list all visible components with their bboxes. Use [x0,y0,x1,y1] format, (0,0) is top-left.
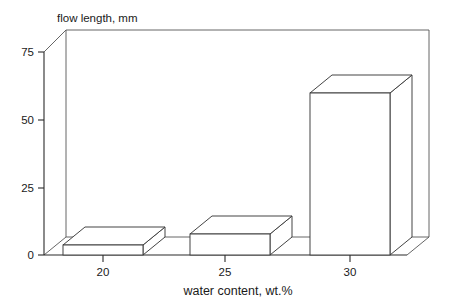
floor-right-diagonal [407,237,429,255]
bar-20 [63,227,165,255]
y-tick-label-25: 25 [21,182,34,194]
x-tick-label-30: 30 [344,266,357,278]
x-axis-title: water content, wt.% [182,284,292,298]
bar-25-face [190,234,270,255]
x-tick-label-25: 25 [219,266,232,278]
y-tick-label-50: 50 [21,114,34,126]
left-wall-top-diagonal [44,30,66,52]
y-axis-title: flow length, mm [57,12,138,24]
y-tick-label-0: 0 [28,249,34,261]
bar-20-face [63,245,143,255]
bar-30-face [310,93,390,255]
bar-chart-3d: 75 50 25 0 20 25 30 flow length, mm wate… [0,0,456,303]
bar-30 [310,75,412,255]
bar-25 [190,216,292,255]
x-tick-label-20: 20 [97,266,110,278]
y-tick-label-75: 75 [21,46,34,58]
bar-30-side [390,75,412,255]
chart-canvas: 75 50 25 0 20 25 30 flow length, mm wate… [0,0,456,303]
